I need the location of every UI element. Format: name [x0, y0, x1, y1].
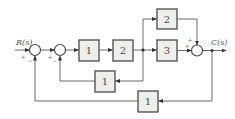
- block-diagram: + − + − + + R(s) C(s) 1 2 2 3 1 1: [0, 0, 235, 119]
- summing-junction-3: [192, 45, 203, 56]
- block-parallel-mid: 3: [157, 40, 177, 61]
- block-forward-2: 2: [113, 40, 133, 61]
- input-signal-label: R(s): [15, 38, 32, 47]
- block-outer-feedback: 1: [138, 91, 158, 112]
- svg-text:2: 2: [164, 14, 170, 25]
- summing-junction-2: [55, 45, 66, 56]
- block-forward-1: 1: [79, 40, 99, 61]
- sign-sum1-input: +: [20, 53, 25, 60]
- branch-point-output: [210, 49, 213, 52]
- block-inner-feedback: 1: [95, 71, 115, 92]
- sign-sum3-left: +: [184, 42, 189, 49]
- svg-text:1: 1: [102, 76, 108, 87]
- svg-text:1: 1: [145, 96, 151, 107]
- svg-text:2: 2: [120, 45, 126, 56]
- branch-point: [141, 48, 144, 51]
- block-parallel-top: 2: [157, 9, 177, 29]
- sign-sum2-feedback: −: [52, 57, 57, 64]
- output-signal-label: C(s): [211, 38, 227, 47]
- svg-text:1: 1: [86, 45, 92, 56]
- sign-sum1-feedback: −: [27, 57, 32, 64]
- svg-text:3: 3: [164, 45, 170, 56]
